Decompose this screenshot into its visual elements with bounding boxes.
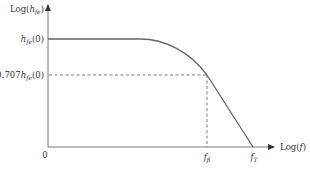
y-tick-0707hfe0: 0.707hfe(0) (0, 70, 44, 82)
origin-label: 0 (42, 150, 47, 160)
x-tick-fbeta: fβ (203, 152, 211, 164)
hfe-curve (48, 39, 253, 147)
y-axis-label: Log(hfe) (10, 4, 44, 16)
x-axis-label: Log(f) (280, 142, 306, 152)
y-tick-hfe0: hfe(0) (21, 34, 44, 46)
hfe-frequency-chart: Log(hfe) hfe(0) 0.707hfe(0) 0 fβ fT Log(… (0, 0, 310, 174)
x-tick-fT: fT (249, 152, 258, 163)
